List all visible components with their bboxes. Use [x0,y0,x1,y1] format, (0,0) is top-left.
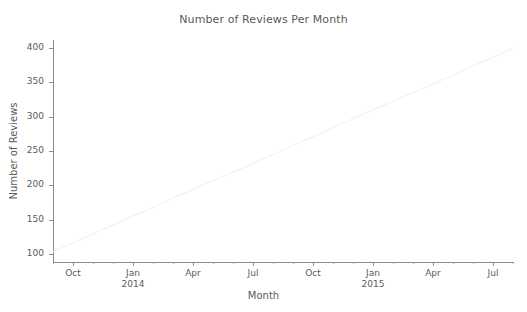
x-tick-mark [73,262,74,266]
x-tick-mark-minor [333,262,334,264]
x-tick-mark-minor [393,262,394,264]
y-tick-mark [49,185,53,186]
x-tick-mark-minor [113,262,114,264]
y-axis-label-container: Number of Reviews [6,40,20,262]
x-tick-mark-minor [53,262,54,264]
x-tick-label: Jan2015 [362,268,385,289]
x-tick-mark-minor [153,262,154,264]
x-tick-label: Apr [425,268,441,278]
x-tick-label-month: Jul [248,268,259,278]
x-tick-mark [493,262,494,266]
y-tick-mark [49,48,53,49]
x-tick-mark-minor [293,262,294,264]
y-tick-mark [49,82,53,83]
x-tick-label-month: Apr [425,268,441,278]
x-tick-label-month: Jan [126,268,140,278]
x-tick-mark [193,262,194,266]
y-tick-mark [49,254,53,255]
x-tick-mark [373,262,374,266]
x-tick-mark-minor [213,262,214,264]
x-tick-label: Jan2014 [122,268,145,289]
x-tick-mark-minor [173,262,174,264]
x-tick-label-month: Oct [305,268,321,278]
y-axis-label: Number of Reviews [8,102,19,199]
x-tick-mark-minor [513,262,514,264]
x-tick-label: Jul [488,268,499,278]
x-tick-label: Oct [65,268,81,278]
x-axis-label: Month [0,290,527,301]
x-tick-mark-minor [453,262,454,264]
y-tick-mark [49,151,53,152]
x-tick-mark [433,262,434,266]
x-tick-mark [313,262,314,266]
x-tick-mark-minor [473,262,474,264]
y-tick-mark [49,220,53,221]
x-tick-label: Apr [185,268,201,278]
x-tick-mark-minor [353,262,354,264]
x-tick-mark-minor [273,262,274,264]
x-tick-mark [253,262,254,266]
x-tick-label-month: Oct [65,268,81,278]
x-tick-mark-minor [413,262,414,264]
x-tick-label-year: 2015 [362,279,385,289]
x-tick-label-month: Jul [488,268,499,278]
chart-title: Number of Reviews Per Month [0,13,527,26]
x-tick-label-month: Apr [185,268,201,278]
data-series-line [53,40,514,263]
x-tick-mark [133,262,134,266]
x-tick-label: Jul [248,268,259,278]
x-tick-mark-minor [93,262,94,264]
chart-figure: Number of Reviews Per Month 100150200250… [0,0,527,312]
series-polyline [53,48,513,252]
x-tick-label: Oct [305,268,321,278]
y-tick-mark [49,117,53,118]
x-tick-label-month: Jan [366,268,380,278]
x-tick-label-year: 2014 [122,279,145,289]
x-tick-mark-minor [233,262,234,264]
